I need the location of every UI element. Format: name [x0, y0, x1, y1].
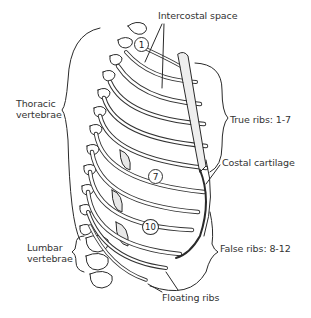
label-false-ribs: False ribs: 8-12 — [220, 243, 291, 254]
label-costal-cartilage: Costal cartilage — [222, 157, 295, 168]
leader-floating-2 — [166, 272, 178, 290]
rib-marker-1: 1 — [134, 37, 149, 52]
rib-marker-10: 10 — [142, 219, 159, 235]
label-lumbar-line1: Lumbar — [27, 242, 73, 253]
rib-marker-7: 7 — [148, 169, 163, 184]
label-true-ribs: True ribs: 1-7 — [230, 114, 291, 125]
label-lumbar-line2: vertebrae — [27, 253, 73, 264]
brace-lumbar — [72, 236, 84, 272]
label-thoracic-line2: vertebrae — [16, 109, 62, 120]
label-thoracic-line1: Thoracic — [16, 98, 62, 109]
leader-floating-1 — [148, 284, 162, 292]
label-thoracic-vertebrae: Thoracic vertebrae — [16, 98, 62, 120]
label-intercostal-space: Intercostal space — [158, 10, 237, 21]
label-floating-ribs: Floating ribs — [162, 292, 219, 303]
label-lumbar-vertebrae: Lumbar vertebrae — [27, 242, 73, 264]
